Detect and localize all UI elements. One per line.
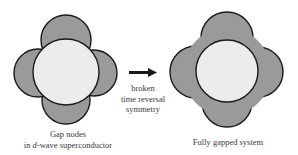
transition-line2: time reversal [110, 94, 176, 105]
left-caption-line1: Gap nodes [8, 129, 128, 140]
right-arrow-icon [129, 68, 157, 77]
caption-prefix: in [24, 140, 33, 150]
left-caption-line2: in d-wave superconductor [8, 140, 128, 151]
d-wave-gap-shape [14, 15, 117, 124]
fully-gapped-shape [170, 12, 283, 127]
fermi-surface-circle [33, 39, 99, 105]
transition-label: broken time reversal symmetry [110, 83, 176, 115]
right-caption: Fully gapped system [184, 137, 272, 148]
transition-line3: symmetry [110, 104, 176, 115]
left-caption: Gap nodes in d-wave superconductor [8, 129, 128, 150]
transition-line1: broken [110, 83, 176, 94]
fermi-surface-circle [196, 40, 258, 102]
caption-suffix: -wave superconductor [37, 140, 112, 150]
